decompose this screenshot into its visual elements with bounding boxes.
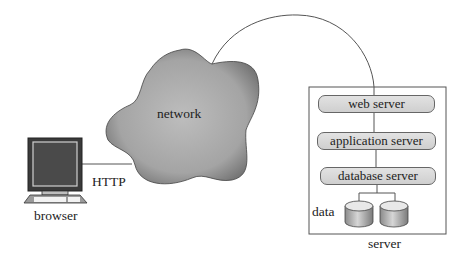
data-label: data <box>312 204 335 220</box>
server-label: server <box>368 236 401 252</box>
web-server-tier: web server <box>318 95 435 113</box>
application-server-tier: application server <box>317 132 436 150</box>
computer-icon <box>24 138 87 203</box>
disk-icon <box>345 201 373 227</box>
network-label: network <box>157 106 201 122</box>
disk-icon <box>380 201 408 227</box>
database-server-tier: database server <box>320 167 436 185</box>
web-architecture-diagram: network HTTP browser web server applicat… <box>0 0 467 258</box>
http-label: HTTP <box>92 174 126 190</box>
browser-label: browser <box>34 208 78 224</box>
